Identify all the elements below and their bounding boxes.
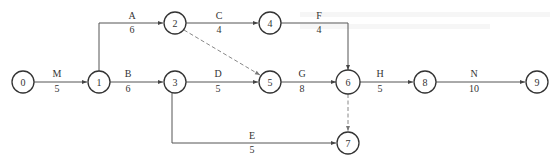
node-7: 7 [337,132,359,154]
node-3-label: 3 [173,77,178,88]
edge-C-name: C [216,10,223,21]
edge-M-name: M [53,68,62,79]
edge-N-duration: 10 [469,83,479,94]
node-5-label: 5 [268,77,273,88]
edge-H-duration: 5 [378,83,383,94]
edge-D-duration: 5 [216,83,221,94]
dummy-edge-2-5 [184,30,260,75]
edge-E-name: E [249,130,255,141]
nodes: 0 1 2 3 4 5 6 [12,12,548,154]
edge-D-name: D [214,68,221,79]
edge-H-name: H [376,68,383,79]
node-6-label: 6 [346,77,351,88]
node-1-label: 1 [97,77,102,88]
node-0: 0 [12,71,34,93]
node-1: 1 [88,71,110,93]
node-4-label: 4 [268,18,273,29]
node-9: 9 [526,71,548,93]
node-2: 2 [164,12,186,34]
edge-E-duration: 5 [250,144,255,155]
edge-A-duration: 6 [130,24,135,35]
edge-B-name: B [125,68,132,79]
node-8: 8 [414,71,436,93]
background-ghost-text [300,12,550,29]
edge-A-name: A [128,10,136,21]
node-5: 5 [259,71,281,93]
node-4: 4 [259,12,281,34]
edge-F-duration: 4 [317,24,322,35]
node-8-label: 8 [423,77,428,88]
node-3: 3 [164,71,186,93]
edge-B-duration: 6 [126,83,131,94]
node-6: 6 [336,70,360,94]
edge-F [281,23,348,70]
edge-C-duration: 4 [217,24,222,35]
edge-F-name: F [316,10,322,21]
edge-M-duration: 5 [55,83,60,94]
edge-G-name: G [298,68,305,79]
node-9-label: 9 [535,77,540,88]
node-0-label: 0 [21,77,26,88]
network-diagram: M 5 A 6 B 6 C 4 D 5 E 5 F 4 G 8 H 5 N 10 [0,0,557,160]
edge-N-name: N [470,68,477,79]
node-7-label: 7 [346,138,351,149]
edge-G-duration: 8 [300,83,305,94]
node-2-label: 2 [173,18,178,29]
